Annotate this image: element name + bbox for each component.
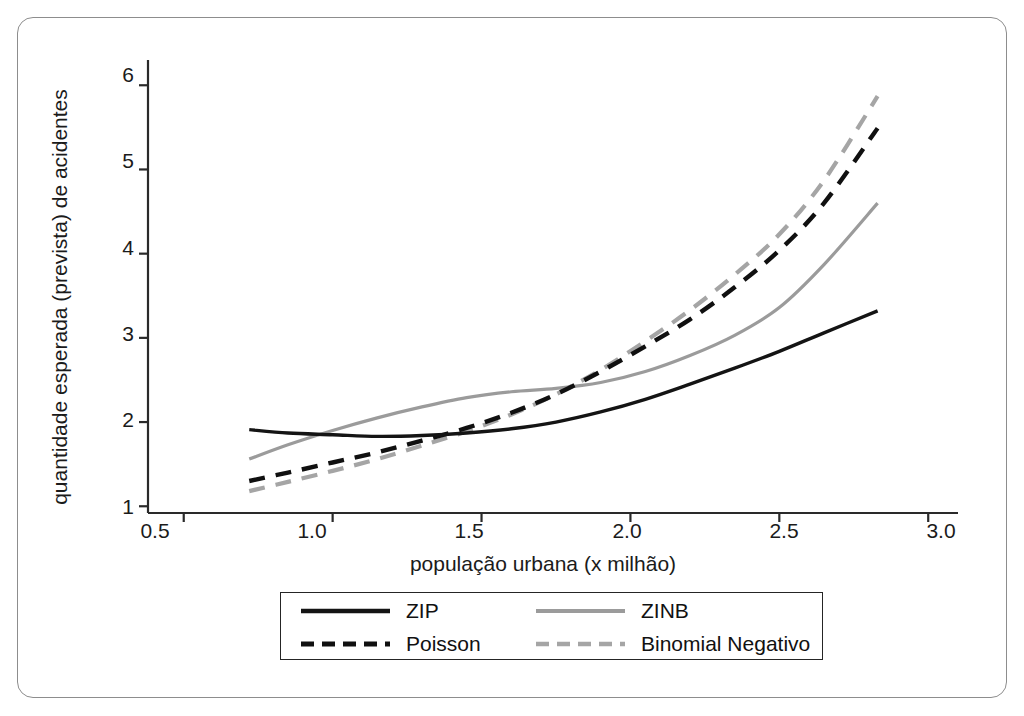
x-tick-label-4: 2.5 xyxy=(754,519,814,543)
legend-entry-zinb: ZINB xyxy=(534,599,689,623)
series-line-zip xyxy=(249,311,877,436)
legend-label-binomial-negativo: Binomial Negativo xyxy=(641,632,810,656)
x-tick-label-0: 0.5 xyxy=(125,519,185,543)
legend-label-poisson: Poisson xyxy=(406,632,481,656)
y-tick-label-1: 2 xyxy=(104,408,134,432)
y-axis-title: quantidade esperada (prevista) de aciden… xyxy=(48,87,72,507)
legend-swatch-binomial-negativo xyxy=(534,637,627,651)
y-tick-label-2: 3 xyxy=(104,322,134,346)
legend-entry-zip: ZIP xyxy=(299,599,439,623)
series-line-binomial-negativo xyxy=(249,96,877,491)
legend-swatch-zip xyxy=(299,604,392,618)
legend-swatch-poisson xyxy=(299,637,392,651)
y-tick-label-5: 6 xyxy=(104,63,134,87)
x-axis-title: população urbana (x milhão) xyxy=(328,552,758,576)
legend-label-zip: ZIP xyxy=(406,599,439,623)
y-tick-label-0: 1 xyxy=(104,495,134,519)
x-tick-label-3: 2.0 xyxy=(597,519,657,543)
y-tick-label-3: 4 xyxy=(104,236,134,260)
chart-legend: ZIP Poisson ZINB Binomial Negativo xyxy=(280,592,823,660)
x-tick-label-2: 1.5 xyxy=(439,519,499,543)
legend-label-zinb: ZINB xyxy=(641,599,689,623)
legend-swatch-zinb xyxy=(534,604,627,618)
chart-plot-area: quantidade esperada (prevista) de aciden… xyxy=(0,0,1024,716)
x-tick-label-1: 1.0 xyxy=(282,519,342,543)
y-tick-label-4: 5 xyxy=(104,149,134,173)
legend-entry-poisson: Poisson xyxy=(299,632,481,656)
legend-entry-binomial-negativo: Binomial Negativo xyxy=(534,632,810,656)
x-tick-label-5: 3.0 xyxy=(911,519,971,543)
